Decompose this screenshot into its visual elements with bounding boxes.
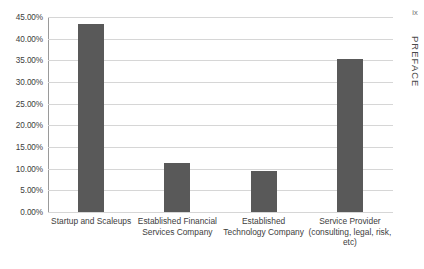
y-axis-tick-label: 35.00% [16,56,43,65]
y-axis-tick-labels: 0.00%5.00%10.00%15.00%20.00%25.00%30.00%… [0,0,46,269]
x-axis-category-labels: Startup and ScaleupsEstablished Financia… [48,216,393,269]
y-axis-tick-label: 15.00% [16,143,43,152]
bar [251,171,277,212]
bar [164,163,190,212]
gridline [48,212,393,213]
plot-area [48,17,393,212]
bar-chart-figure: 0.00%5.00%10.00%15.00%20.00%25.00%30.00%… [0,0,396,269]
x-axis-category-label: Established Financial Services Company [134,216,220,237]
book-page: 0.00%5.00%10.00%15.00%20.00%25.00%30.00%… [0,0,424,269]
y-axis-tick-label: 10.00% [16,164,43,173]
y-axis-tick-label: 5.00% [20,186,43,195]
bar [78,24,104,212]
bar [337,59,363,212]
y-axis-line [48,17,49,212]
page-number: ix [412,8,418,17]
y-axis-tick-label: 0.00% [20,208,43,217]
x-axis-category-label: Established Technology Company [221,216,307,237]
y-axis-tick-label: 40.00% [16,34,43,43]
gridline [48,17,393,18]
running-head: PREFACE [410,36,421,87]
x-axis-category-label: Service Provider (consulting, legal, ris… [307,216,393,248]
y-axis-tick-label: 45.00% [16,13,43,22]
y-axis-tick-label: 20.00% [16,121,43,130]
x-axis-category-label: Startup and Scaleups [48,216,134,227]
y-axis-tick-label: 30.00% [16,78,43,87]
y-axis-tick-label: 25.00% [16,99,43,108]
